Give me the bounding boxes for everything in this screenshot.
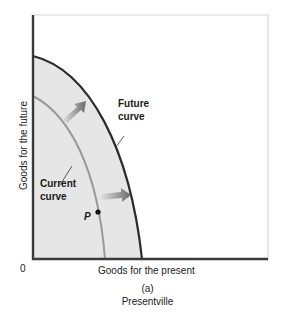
- y-axis-label: Goods for the future: [18, 91, 29, 201]
- x-axis-label: Goods for the present: [98, 265, 195, 276]
- ppf-diagram: [0, 0, 283, 330]
- caption: Presentville: [0, 296, 283, 307]
- current-curve-label-1: Current: [40, 178, 76, 189]
- ppf-shaded-area: [33, 56, 142, 259]
- origin-label: 0: [20, 263, 26, 274]
- current-curve-label-2: curve: [40, 191, 67, 202]
- future-curve-label-1: Future: [118, 98, 149, 109]
- panel-label: (a): [0, 283, 283, 294]
- point-p-marker: [95, 209, 100, 214]
- future-curve-label-2: curve: [118, 111, 145, 122]
- future-leader-line: [116, 136, 124, 147]
- point-p-label: P: [84, 211, 91, 222]
